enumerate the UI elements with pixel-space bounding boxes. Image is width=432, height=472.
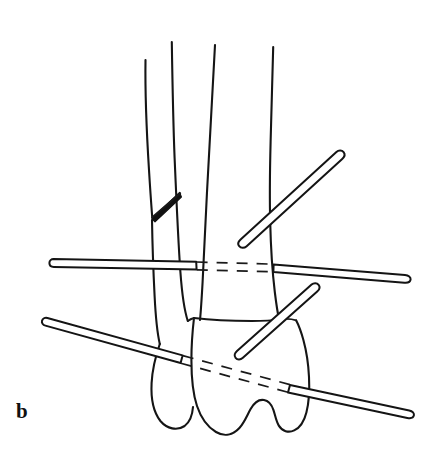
panel-label: b bbox=[16, 401, 28, 422]
ankle-fixation-illustration bbox=[0, 0, 432, 472]
pin-transverse-upper-left-shaft[interactable] bbox=[49, 259, 196, 270]
figure-panel: b bbox=[0, 0, 432, 472]
